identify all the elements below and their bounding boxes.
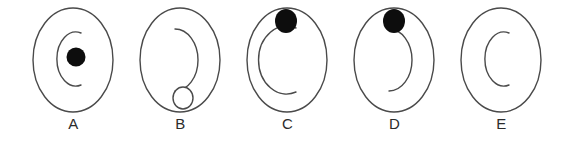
panel-c-label: C — [234, 114, 341, 134]
panel-d-label: D — [341, 114, 448, 134]
panel-b-graphic — [127, 0, 234, 120]
panel-b: B — [127, 0, 234, 144]
filled-dot-marker — [67, 48, 86, 67]
panel-d: D — [341, 0, 448, 144]
outer-oval — [461, 8, 541, 112]
hollow-circle-marker — [173, 87, 193, 109]
panel-a-graphic — [20, 0, 127, 120]
panel-e-graphic — [448, 0, 555, 120]
inner-arc — [389, 29, 412, 91]
panel-e-label: E — [448, 114, 555, 134]
figure-panels-row: A B C D E — [0, 0, 569, 144]
panel-a-label: A — [20, 114, 127, 134]
panel-e: E — [448, 0, 555, 144]
inner-arc — [485, 32, 509, 86]
inner-arc — [175, 29, 198, 91]
panel-d-graphic — [341, 0, 448, 120]
filled-dot-marker — [275, 9, 297, 33]
filled-dot-marker — [383, 9, 405, 33]
panel-c: C — [234, 0, 341, 144]
panel-c-graphic — [234, 0, 341, 120]
panel-a: A — [20, 0, 127, 144]
panel-b-label: B — [127, 114, 234, 134]
inner-arc — [259, 26, 296, 94]
